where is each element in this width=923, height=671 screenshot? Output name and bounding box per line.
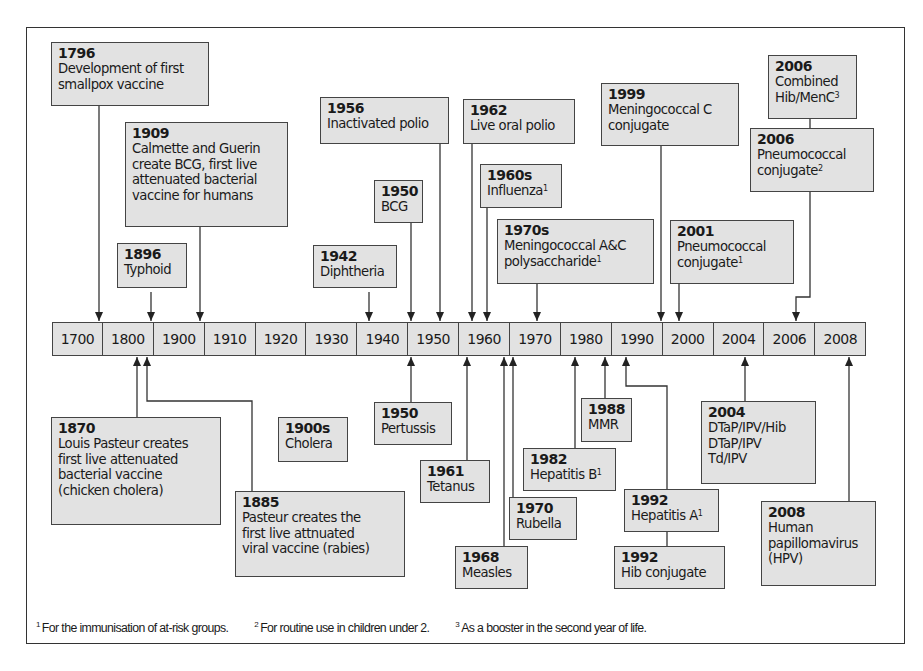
event-box-1870: 1870Louis Pasteur creates first live att… — [51, 417, 221, 525]
event-box-1950: 1950Pertussis — [374, 402, 452, 445]
footnote-mark: 1 — [36, 620, 40, 629]
event-year: 2001 — [677, 223, 787, 239]
event-year: 1968 — [462, 549, 521, 565]
event-year: 1796 — [58, 45, 202, 61]
timeline-tick: 1920 — [256, 322, 307, 356]
event-box-1999: 1999Meningococcal C conjugate — [601, 83, 739, 146]
event-year: 1970s — [504, 222, 647, 238]
event-description: Pneumococcal conjugate2 — [757, 147, 867, 178]
event-year: 1950 — [381, 183, 416, 199]
event-box-2006: 2006Pneumococcal conjugate2 — [750, 128, 874, 192]
footnote-marker: 1 — [698, 509, 703, 518]
event-box-1992: 1992Hepatitis A1 — [624, 489, 719, 532]
event-description: Hepatitis B1 — [530, 467, 609, 483]
footnote-marker: 1 — [597, 468, 602, 477]
event-box-1885: 1885Pasteur creates the first live attnu… — [235, 491, 405, 577]
event-year: 1961 — [427, 463, 483, 479]
timeline-tick: 1950 — [408, 322, 459, 356]
event-description: Influenza1 — [487, 183, 555, 199]
event-description: Calmette and Guerin create BCG, first li… — [132, 141, 281, 203]
event-box-1796: 1796Development of first smallpox vaccin… — [51, 42, 209, 106]
timeline-tick: 1990 — [612, 322, 663, 356]
event-year: 1950 — [381, 405, 445, 421]
timeline-tick: 1930 — [306, 322, 357, 356]
event-description: Inactivated polio — [327, 116, 442, 132]
event-box-1956: 1956Inactivated polio — [320, 97, 449, 144]
event-box-1900s: 1900sCholera — [278, 417, 348, 462]
event-description: Human papillomavirus (HPV) — [768, 520, 869, 567]
timeline-tick: 2008 — [815, 322, 866, 356]
footnote-text: For routine use in children under 2. — [260, 621, 429, 635]
event-box-1960s: 1960sInfluenza1 — [480, 164, 562, 208]
timeline-tick: 2006 — [764, 322, 815, 356]
event-box-1896: 1896Typhoid — [117, 243, 187, 288]
event-year: 1909 — [132, 125, 281, 141]
event-box-2004: 2004DTaP/IPV/Hib DTaP/IPV Td/IPV — [701, 401, 816, 484]
event-box-1970: 1970Rubella — [509, 497, 577, 540]
event-year: 1900s — [285, 420, 341, 436]
timeline-tick: 1700 — [52, 322, 103, 356]
event-description: Louis Pasteur creates first live attenua… — [58, 436, 214, 498]
event-box-1988: 1988MMR — [581, 398, 632, 442]
timeline-tick: 1970 — [510, 322, 561, 356]
event-description: Pasteur creates the first live attnuated… — [242, 510, 398, 557]
event-box-1961: 1961Tetanus — [420, 460, 490, 503]
event-description: Meningococcal A&C polysaccharide1 — [504, 238, 647, 269]
event-year: 1896 — [124, 246, 180, 262]
event-year: 1956 — [327, 100, 442, 116]
footnote-marker: 3 — [834, 91, 839, 100]
event-box-2001: 2001Pneumococcal conjugate1 — [670, 220, 794, 284]
event-year: 1999 — [608, 86, 732, 102]
event-year: 1982 — [530, 451, 609, 467]
event-year: 1870 — [58, 420, 214, 436]
timeline-tick: 1800 — [103, 322, 154, 356]
event-year: 2004 — [708, 404, 809, 420]
event-description: DTaP/IPV/Hib DTaP/IPV Td/IPV — [708, 420, 809, 467]
footnote-marker: 1 — [738, 256, 743, 265]
event-description: MMR — [588, 417, 625, 433]
footnote: 3As a booster in the second year of life… — [455, 620, 646, 635]
event-description: Pneumococcal conjugate1 — [677, 239, 787, 270]
timeline-tick: 2000 — [663, 322, 714, 356]
footnote-mark: 3 — [455, 620, 459, 629]
event-description: Tetanus — [427, 479, 483, 495]
event-description: Pertussis — [381, 421, 445, 437]
event-year: 1962 — [470, 102, 568, 118]
event-description: Combined Hib/MenC3 — [775, 74, 850, 105]
footnote-mark: 2 — [254, 620, 258, 629]
timeline-tick: 1900 — [154, 322, 205, 356]
timeline-bar: 1700180019001910192019301940195019601970… — [52, 322, 866, 356]
event-year: 1988 — [588, 401, 625, 417]
timeline-tick: 2004 — [714, 322, 765, 356]
timeline-tick: 1910 — [205, 322, 256, 356]
event-year: 1970 — [516, 500, 570, 516]
event-description: Development of first smallpox vaccine — [58, 61, 202, 92]
event-description: Rubella — [516, 516, 570, 532]
event-description: Hib conjugate — [621, 565, 718, 581]
footnote-marker: 1 — [543, 184, 548, 193]
event-box-1968: 1968Measles — [455, 546, 528, 589]
event-description: Cholera — [285, 436, 341, 452]
event-year: 2006 — [757, 131, 867, 147]
event-year: 1992 — [631, 492, 712, 508]
event-description: Diphtheria — [320, 264, 390, 280]
event-year: 1885 — [242, 494, 398, 510]
event-box-1942: 1942Diphtheria — [313, 245, 397, 288]
event-box-1962: 1962Live oral polio — [463, 99, 575, 144]
footnote-text: As a booster in the second year of life. — [461, 621, 646, 635]
event-year: 1992 — [621, 549, 718, 565]
event-box-1982: 1982Hepatitis B1 — [523, 448, 616, 491]
event-box-2006: 2006Combined Hib/MenC3 — [768, 55, 857, 119]
footnote-text: For the immunisation of at-risk groups. — [42, 621, 228, 635]
footnote: 2For routine use in children under 2. — [254, 620, 429, 635]
event-description: Typhoid — [124, 262, 180, 278]
timeline-tick: 1980 — [561, 322, 612, 356]
footnote: 1For the immunisation of at-risk groups. — [36, 620, 228, 635]
event-box-1992: 1992Hib conjugate — [614, 546, 725, 589]
event-year: 1960s — [487, 167, 555, 183]
event-box-2008: 2008Human papillomavirus (HPV) — [761, 501, 876, 586]
footnotes: 1For the immunisation of at-risk groups.… — [36, 620, 896, 635]
event-description: Live oral polio — [470, 118, 568, 134]
timeline-tick: 1960 — [459, 322, 510, 356]
event-description: Hepatitis A1 — [631, 508, 712, 524]
